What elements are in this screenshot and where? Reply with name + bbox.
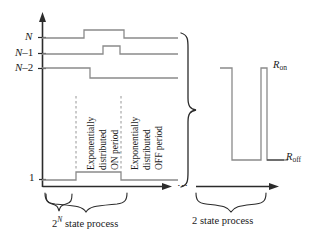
y-tick-label-n-minus-2: N–2 xyxy=(15,62,33,73)
grouping-brace xyxy=(181,33,196,187)
annotation-on-period-line1: Exponentially xyxy=(87,117,97,170)
annotation-off-period-line2: distributed xyxy=(143,129,153,170)
waveform-level-N-2 xyxy=(42,68,178,78)
caption-brace-left-wide xyxy=(45,193,127,212)
waveform-level-N-1 xyxy=(42,46,178,54)
annotation-on-period-line2: distributed xyxy=(99,129,109,170)
right-arrow-head xyxy=(269,183,279,190)
label-r-on: Ron xyxy=(273,60,287,71)
two-state-waveform xyxy=(220,68,288,160)
ellipsis-separator: ⋯ xyxy=(177,181,189,192)
annotation-off-period-line3: OFF period xyxy=(155,126,165,170)
caption-left-process: 2N state process xyxy=(52,216,118,229)
waveform-level-1 xyxy=(42,172,178,180)
figure-root: N N–1 N–2 1 Exponentially distributed ON… xyxy=(0,0,314,240)
y-axis-arrowhead xyxy=(39,12,46,22)
grouping-brace-path xyxy=(181,33,196,187)
y-tick-label-n-minus-1: N–1 xyxy=(15,47,33,58)
caption-brace-left-path xyxy=(45,193,127,212)
y-tick-label-one: 1 xyxy=(29,172,35,183)
waveform-level-N xyxy=(42,30,178,38)
caption-brace-right-wide xyxy=(196,193,266,212)
annotation-on-period-line3: ON period xyxy=(111,130,121,170)
figure-canvas xyxy=(0,0,314,240)
right-axis-arrow xyxy=(196,183,279,190)
label-r-off: Roff xyxy=(286,152,301,163)
x-axis-arrowhead xyxy=(162,183,172,190)
two-state-waveform-path xyxy=(220,68,288,160)
annotation-off-period-line1: Exponentially xyxy=(131,117,141,170)
caption-right-process: 2 state process xyxy=(192,216,253,227)
y-tick-label-n: N xyxy=(25,31,32,42)
caption-brace-right-path xyxy=(196,193,266,212)
